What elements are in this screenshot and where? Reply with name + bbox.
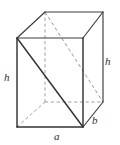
top-right-receding-edge bbox=[83, 12, 103, 38]
top-face-edges-group bbox=[17, 12, 103, 38]
prism-drawing bbox=[0, 0, 120, 145]
label-b: b bbox=[92, 115, 98, 126]
front-face-diagonal bbox=[17, 38, 83, 127]
label-h-right: h bbox=[105, 56, 111, 67]
label-h-left: h bbox=[4, 72, 10, 83]
visible-diagonal-group bbox=[17, 38, 83, 127]
label-a: a bbox=[54, 131, 60, 142]
top-left-receding-edge bbox=[17, 12, 45, 38]
right-face-edges-group bbox=[83, 12, 103, 127]
prism-figure: h h a b bbox=[0, 0, 120, 145]
bottom-left-receding-edge bbox=[17, 102, 45, 127]
